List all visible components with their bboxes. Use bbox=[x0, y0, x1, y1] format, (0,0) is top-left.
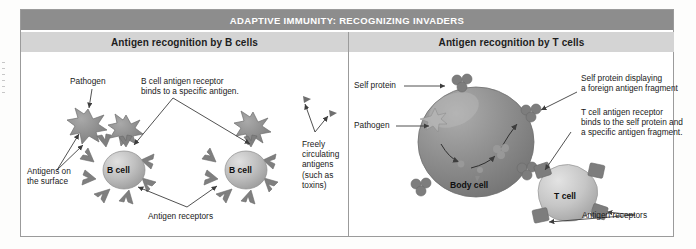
free-antigens-leaders bbox=[305, 104, 328, 132]
panel-header-t-cells: Antigen recognition by T cells bbox=[349, 32, 674, 52]
label-b-receptor-binds: B cell antigen receptor binds to a speci… bbox=[141, 76, 239, 96]
label-pathogen-left: Pathogen bbox=[70, 76, 106, 86]
immunology-figure: ADAPTIVE IMMUNITY: RECOGNIZING INVADERS … bbox=[0, 0, 696, 249]
label-antigens-on-surface: Antigens on the surface bbox=[27, 166, 71, 186]
binding-callout-leaders bbox=[134, 98, 250, 145]
panel-b-cells: Pathogen B cell antigen receptor binds t… bbox=[21, 52, 348, 236]
panel-header-b-cells: Antigen recognition by B cells bbox=[21, 32, 348, 52]
cell-label-b-cell-1: B cell bbox=[107, 165, 130, 175]
antigens-on-surface-leaders bbox=[57, 134, 83, 170]
label-self-protein: Self protein bbox=[354, 80, 396, 90]
cell-label-body-cell: Body cell bbox=[450, 180, 488, 190]
scan-artifact bbox=[2, 86, 5, 87]
label-antigen-receptors-right: Antigen receptors bbox=[582, 210, 647, 220]
scan-artifact bbox=[2, 68, 5, 69]
cell-label-b-cell-2: B cell bbox=[229, 165, 252, 175]
scan-artifact bbox=[2, 74, 5, 75]
label-antigen-receptors-left: Antigen receptors bbox=[148, 211, 213, 221]
panel-t-cells: Self protein Pathogen Self protein displ… bbox=[349, 52, 674, 236]
figure-frame: ADAPTIVE IMMUNITY: RECOGNIZING INVADERS … bbox=[20, 9, 674, 237]
pathogen-label-leader bbox=[89, 89, 92, 108]
scan-artifact bbox=[2, 62, 5, 63]
cell-label-t-cell: T cell bbox=[554, 191, 576, 201]
scan-artifact bbox=[2, 92, 5, 93]
label-free-circulating-antigens: Freely circulating antigens (such as tox… bbox=[302, 139, 339, 190]
b-cell-2 bbox=[202, 148, 278, 204]
label-pathogen-right: Pathogen bbox=[354, 120, 390, 130]
label-self-protein-displaying: Self protein displaying a foreign antige… bbox=[581, 73, 678, 93]
label-t-receptor-binds: T cell antigen receptor binds to the sel… bbox=[581, 107, 683, 138]
figure-banner-title: ADAPTIVE IMMUNITY: RECOGNIZING INVADERS bbox=[21, 10, 673, 30]
scan-artifact bbox=[2, 80, 5, 81]
